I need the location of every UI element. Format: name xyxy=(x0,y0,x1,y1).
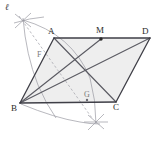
cross-mark-top xyxy=(15,13,31,28)
label-C: C xyxy=(113,103,119,112)
label-G: G xyxy=(84,91,90,99)
label-B: B xyxy=(11,104,17,113)
arc-lower-small xyxy=(21,104,100,124)
point-G-dot xyxy=(86,99,88,101)
label-D: D xyxy=(142,27,149,36)
point-M-dot xyxy=(99,37,102,40)
label-M: M xyxy=(96,26,104,35)
label-F: F xyxy=(37,51,41,59)
label-line-l: ℓ xyxy=(5,3,9,12)
label-A: A xyxy=(48,27,55,36)
figure-canvas xyxy=(0,0,164,142)
geometry-figure: ℓ A M D B C F G xyxy=(0,0,164,142)
